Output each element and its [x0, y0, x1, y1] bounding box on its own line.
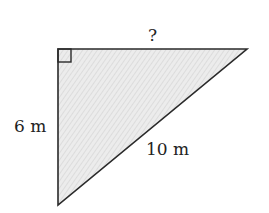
- triangle-shape: [58, 49, 247, 205]
- triangle-diagram: ? 6 m 10 m: [0, 0, 269, 213]
- left-side-label: 6 m: [14, 116, 46, 136]
- top-side-label: ?: [148, 25, 157, 45]
- hypotenuse-label: 10 m: [146, 139, 189, 159]
